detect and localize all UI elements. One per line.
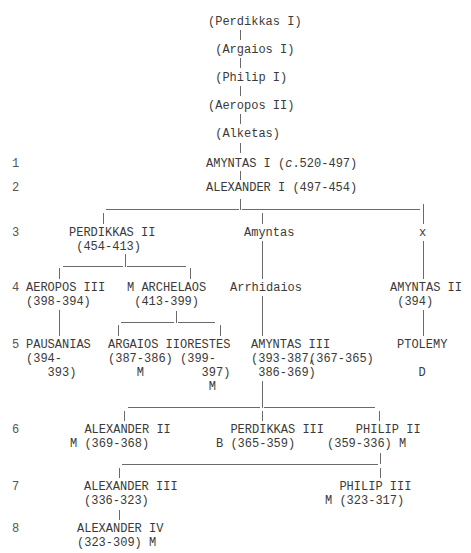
generation-number: 4: [12, 281, 19, 295]
generation-number: 2: [12, 181, 19, 195]
horizontal-connector: [122, 464, 378, 465]
generation-number: 8: [12, 522, 19, 536]
person-node-alexander-i: ALEXANDER I (497-454): [206, 181, 357, 195]
person-text-line: 397): [180, 366, 230, 380]
generation-number: 7: [12, 480, 19, 494]
person-node-amyntas: Amyntas: [244, 226, 294, 240]
person-node-amyntas-ii: AMYNTAS II (394): [390, 281, 462, 309]
vertical-connector: [220, 325, 221, 336]
person-text-line: [397, 352, 447, 366]
person-node-amyntas-iii-reign2: (367-365): [309, 352, 374, 366]
person-text-line: ARGAIOS II: [108, 338, 180, 352]
person-node-x: x: [419, 226, 426, 240]
generation-number: 6: [12, 423, 19, 437]
person-text-line: AMYNTAS I (c.520-497): [206, 157, 357, 171]
vertical-connector: [124, 411, 125, 421]
person-text-line: PHILIP III: [325, 480, 411, 494]
person-text-line: M: [180, 380, 230, 394]
person-text-line: (367-365): [309, 352, 374, 366]
vertical-connector: [59, 268, 60, 279]
person-text-line: M (369-368): [70, 437, 171, 451]
person-text-line: PTOLEMY: [397, 338, 447, 352]
vertical-connector: [190, 268, 191, 279]
person-text-line: ALEXANDER IV: [77, 522, 163, 536]
vertical-connector: [240, 58, 241, 68]
person-text-line: (323-309) M: [77, 536, 163, 550]
person-text-line: (Perdikkas I): [208, 15, 302, 29]
person-text-line: ALEXANDER II: [70, 423, 171, 437]
person-node-philip-ii: PHILIP II(359-336) M: [327, 423, 421, 451]
person-node-alketas: (Alketas): [208, 127, 280, 141]
person-text-line: (394-: [26, 352, 91, 366]
person-text-line: (Argaios I): [208, 43, 294, 57]
vertical-connector: [379, 411, 380, 421]
person-node-ptolemy: PTOLEMY D: [397, 338, 447, 380]
horizontal-connector: [121, 322, 174, 323]
vertical-connector: [176, 311, 177, 323]
person-text-line: B (365-359): [216, 437, 324, 451]
person-text-line: M ARCHELAOS: [127, 281, 206, 295]
person-text-line: (454-413): [69, 240, 155, 254]
person-node-archelaos: M ARCHELAOS (413-399): [127, 281, 206, 309]
person-node-argaios-ii: ARGAIOS II(387-386) M: [108, 338, 180, 380]
vertical-connector: [262, 296, 263, 336]
vertical-connector: [380, 468, 381, 478]
vertical-connector: [59, 310, 60, 336]
person-node-aeropos-iii: AEROPOS III(398-394): [26, 281, 105, 309]
person-node-orestes: ORESTES(399- 397) M: [180, 338, 230, 394]
person-text-line: Amyntas: [244, 226, 294, 240]
horizontal-connector: [264, 407, 375, 408]
person-text-line: M: [108, 366, 180, 380]
person-text-line: (387-386): [108, 352, 180, 366]
horizontal-connector: [128, 407, 260, 408]
person-node-philip-iii: PHILIP IIIM (323-317): [325, 480, 411, 508]
vertical-connector: [262, 411, 263, 421]
horizontal-connector: [106, 209, 239, 210]
horizontal-connector: [63, 266, 123, 267]
person-text-line: PAUSANIAS: [26, 338, 91, 352]
person-text-line: PERDIKKAS II: [69, 226, 155, 240]
person-node-alexander-iv: ALEXANDER IV(323-309) M: [77, 522, 163, 550]
person-node-arrhidaios: Arrhidaios: [230, 281, 302, 295]
person-text-line: 393): [26, 366, 91, 380]
person-text-line: (Philip I): [208, 71, 287, 85]
person-node-aeropos-ii: (Aeropos II): [208, 99, 294, 113]
person-text-line: (Alketas): [208, 127, 280, 141]
vertical-connector: [118, 325, 119, 336]
horizontal-connector: [178, 322, 215, 323]
vertical-connector: [240, 143, 241, 153]
vertical-connector: [119, 510, 120, 520]
person-text-line: (399-: [180, 352, 230, 366]
person-text-line: (398-394): [26, 295, 105, 309]
vertical-connector: [423, 310, 424, 336]
person-text-line: (359-336) M: [327, 437, 421, 451]
vertical-connector: [262, 241, 263, 279]
person-node-philip-i: (Philip I): [208, 71, 287, 85]
person-node-perdikkas-ii: PERDIKKAS II (454-413): [69, 226, 155, 254]
person-text-line: ORESTES: [180, 338, 230, 352]
vertical-connector: [423, 241, 424, 279]
generation-number: 1: [12, 157, 19, 171]
person-text-line: ALEXANDER III: [84, 480, 178, 494]
horizontal-connector: [242, 209, 420, 210]
person-node-alexander-iii: ALEXANDER III(336-323): [84, 480, 178, 508]
person-text-line: AMYNTAS II: [390, 281, 462, 295]
vertical-connector: [240, 30, 241, 40]
generation-number: 5: [12, 338, 19, 352]
person-node-argaios-i: (Argaios I): [208, 43, 294, 57]
family-tree: 12345678 (Perdikkas I) (Argaios I) (Phil…: [0, 0, 471, 553]
person-text-line: x: [419, 226, 426, 240]
horizontal-connector: [127, 266, 186, 267]
generation-number: 3: [12, 226, 19, 240]
person-text-line: 386-369): [251, 366, 330, 380]
person-text-line: PERDIKKAS III: [216, 423, 324, 437]
vertical-connector: [240, 114, 241, 124]
person-node-amyntas-i: AMYNTAS I (c.520-497): [206, 157, 357, 171]
vertical-connector: [103, 213, 104, 224]
vertical-connector: [262, 381, 263, 408]
person-node-perdikkas-i: (Perdikkas I): [208, 15, 302, 29]
person-node-pausanias: PAUSANIAS(394- 393): [26, 338, 91, 380]
vertical-connector: [119, 468, 120, 478]
person-text-line: AMYNTAS III: [251, 338, 330, 352]
vertical-connector: [125, 254, 126, 267]
